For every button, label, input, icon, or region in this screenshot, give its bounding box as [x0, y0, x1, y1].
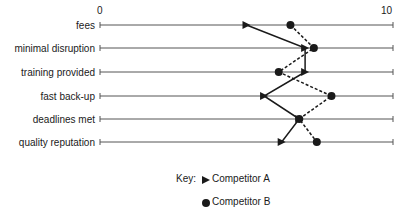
circle-icon	[201, 198, 211, 208]
triangle-marker	[260, 92, 268, 100]
circle-marker	[275, 68, 283, 76]
axes: 010feesminimal disruptiontraining provid…	[14, 5, 393, 148]
series-line	[247, 25, 306, 142]
circle-marker	[313, 138, 321, 146]
circle-marker	[327, 92, 335, 100]
legend-competitor-b: Competitor B	[212, 196, 270, 207]
legend-competitor-a: Competitor A	[212, 173, 270, 184]
circle-marker	[295, 115, 303, 123]
category-label: minimal disruption	[14, 43, 95, 54]
category-label: deadlines met	[33, 114, 95, 125]
circle-marker	[286, 21, 294, 29]
series-lines	[247, 25, 332, 142]
category-label: training provided	[21, 67, 95, 78]
category-label: fast back-up	[41, 91, 96, 102]
triangle-icon	[201, 175, 211, 185]
category-label: fees	[76, 20, 95, 31]
category-label: quality reputation	[19, 137, 95, 148]
series-markers	[243, 21, 336, 146]
x-tick-label: 0	[97, 5, 103, 16]
x-tick-label: 10	[381, 5, 393, 16]
triangle-marker	[243, 21, 251, 29]
legend-key-label: Key:	[176, 173, 196, 184]
circle-marker	[310, 44, 318, 52]
